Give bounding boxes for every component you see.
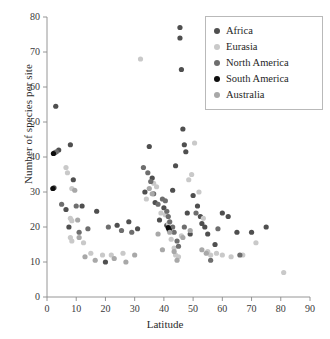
data-point: [182, 224, 187, 229]
y-tick-label: 80: [30, 11, 40, 22]
legend-marker-icon: [214, 28, 220, 34]
data-point: [160, 247, 165, 252]
x-tick-label: 30: [130, 303, 140, 314]
data-point: [177, 35, 182, 40]
y-tick-label: 10: [30, 256, 40, 267]
data-point: [212, 242, 217, 247]
data-point: [189, 172, 194, 177]
x-tick-label: 10: [71, 303, 81, 314]
data-point: [191, 193, 196, 198]
data-point: [119, 228, 124, 233]
data-point: [69, 238, 74, 243]
legend-item-label: Africa: [226, 23, 253, 39]
data-point: [155, 202, 160, 207]
data-point: [172, 249, 177, 254]
data-point: [112, 256, 117, 261]
data-point: [196, 189, 201, 194]
data-point: [142, 189, 147, 194]
data-point: [51, 151, 56, 156]
data-point: [71, 177, 76, 182]
x-axis-title: Latitude: [0, 318, 330, 330]
data-point: [82, 254, 87, 259]
data-point: [129, 230, 134, 235]
data-point: [234, 230, 239, 235]
data-point: [53, 104, 58, 109]
data-point: [208, 258, 213, 263]
data-point: [85, 226, 90, 231]
data-point: [144, 196, 149, 201]
legend: AfricaEurasiaNorth AmericaSouth AmericaA…: [205, 16, 323, 110]
data-point: [88, 251, 93, 256]
data-point: [138, 56, 143, 61]
data-point: [79, 203, 84, 208]
data-point: [180, 235, 185, 240]
legend-marker-icon: [214, 76, 220, 82]
data-point: [154, 184, 159, 189]
data-point: [150, 191, 155, 196]
data-point: [220, 210, 225, 215]
x-tick-label: 40: [159, 303, 169, 314]
data-point: [72, 188, 77, 193]
data-point: [75, 217, 80, 222]
data-point: [177, 25, 182, 30]
legend-item-eurasia[interactable]: Eurasia: [210, 39, 316, 55]
data-point: [120, 251, 125, 256]
y-tick-label: 20: [30, 221, 40, 232]
data-point: [69, 218, 74, 223]
data-point: [81, 240, 86, 245]
data-point: [214, 251, 219, 256]
data-point: [229, 254, 234, 259]
legend-marker-icon: [214, 60, 220, 66]
data-point: [185, 210, 190, 215]
data-point: [226, 214, 231, 219]
data-point: [163, 198, 168, 203]
legend-marker-icon: [214, 44, 220, 50]
data-point: [147, 144, 152, 149]
data-point: [157, 217, 162, 222]
legend-item-label: North America: [226, 55, 289, 71]
data-point: [141, 165, 146, 170]
data-point: [77, 230, 82, 235]
data-point: [147, 186, 152, 191]
legend-item-south-america[interactable]: South America: [210, 71, 316, 87]
data-point: [123, 259, 128, 264]
data-point: [249, 230, 254, 235]
data-point: [93, 258, 98, 263]
legend-item-australia[interactable]: Australia: [210, 87, 316, 103]
data-point: [176, 244, 181, 249]
data-point: [66, 224, 71, 229]
data-point: [132, 252, 137, 257]
data-point: [237, 252, 242, 257]
x-tick-label: 90: [305, 303, 315, 314]
x-tick-label: 80: [276, 303, 286, 314]
data-point: [170, 188, 175, 193]
data-point: [77, 235, 82, 240]
data-point: [182, 142, 187, 147]
data-point: [264, 224, 269, 229]
legend-item-label: Eurasia: [226, 39, 258, 55]
data-point: [186, 177, 191, 182]
data-point: [63, 207, 68, 212]
data-point: [173, 163, 178, 168]
legend-item-africa[interactable]: Africa: [210, 23, 316, 39]
data-point: [205, 231, 210, 236]
data-point: [115, 223, 120, 228]
legend-item-label: South America: [226, 71, 289, 87]
data-point: [100, 252, 105, 257]
data-point: [179, 67, 184, 72]
data-point: [155, 231, 160, 236]
data-point: [106, 224, 111, 229]
data-point: [202, 224, 207, 229]
x-tick-label: 0: [45, 303, 50, 314]
scatter-plot-figure: 010203040506070800102030405060708090 Num…: [0, 0, 330, 339]
legend-item-north-america[interactable]: North America: [210, 55, 316, 71]
x-tick-label: 70: [247, 303, 257, 314]
data-point: [167, 219, 172, 224]
data-point: [220, 252, 225, 257]
data-point: [174, 238, 179, 243]
x-tick-label: 60: [217, 303, 227, 314]
data-point: [188, 228, 193, 233]
y-axis-title: Number of species per site: [22, 34, 34, 214]
data-point: [192, 140, 197, 145]
data-point: [145, 170, 150, 175]
